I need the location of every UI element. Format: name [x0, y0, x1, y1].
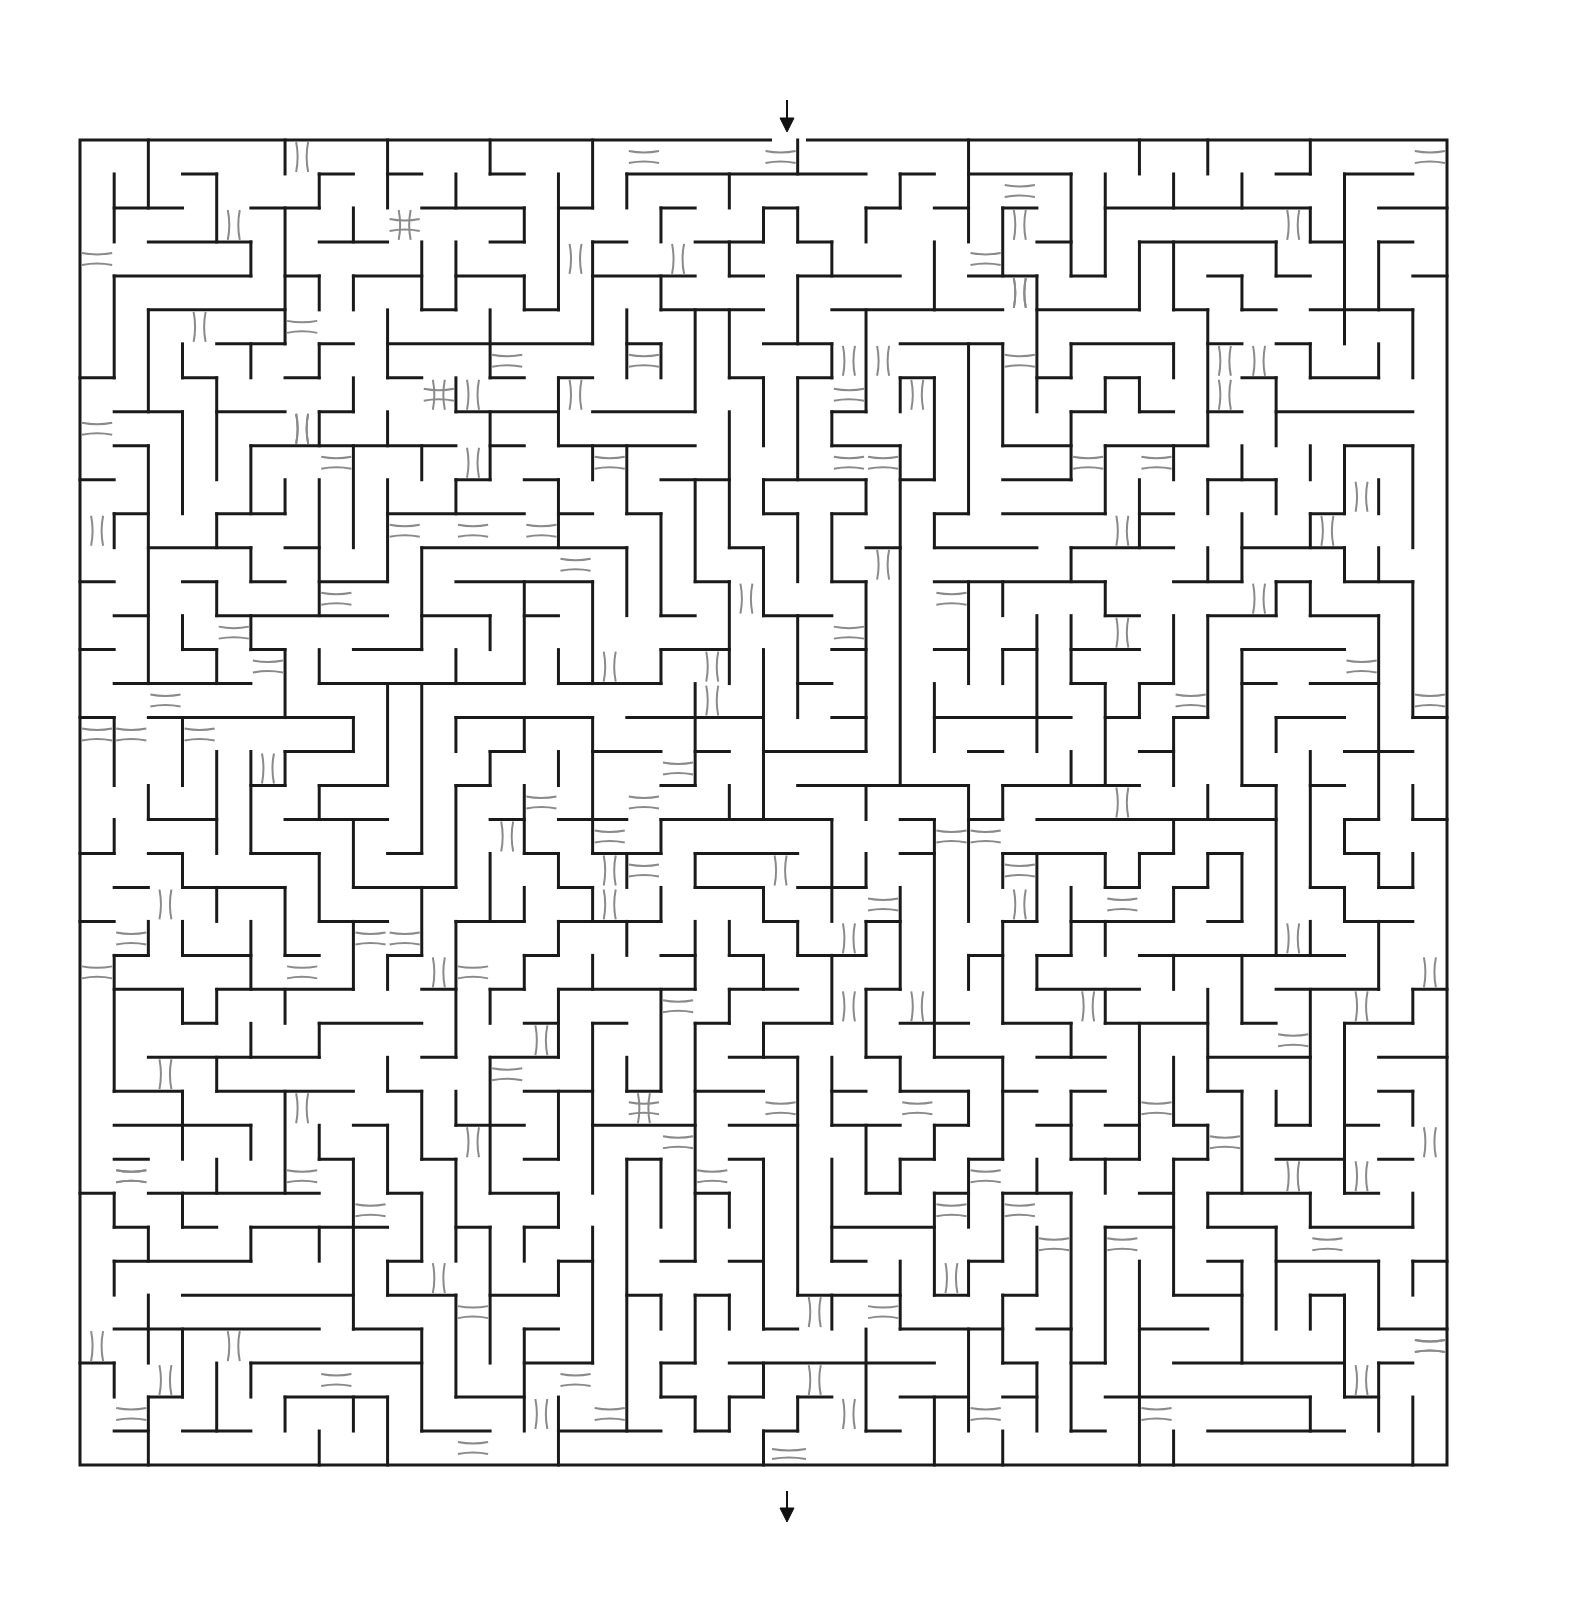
maze-board[interactable]	[0, 0, 1577, 1624]
arrow-down-icon	[780, 1491, 794, 1522]
arrow-down-icon	[780, 100, 794, 132]
maze-walls	[80, 140, 1447, 1465]
